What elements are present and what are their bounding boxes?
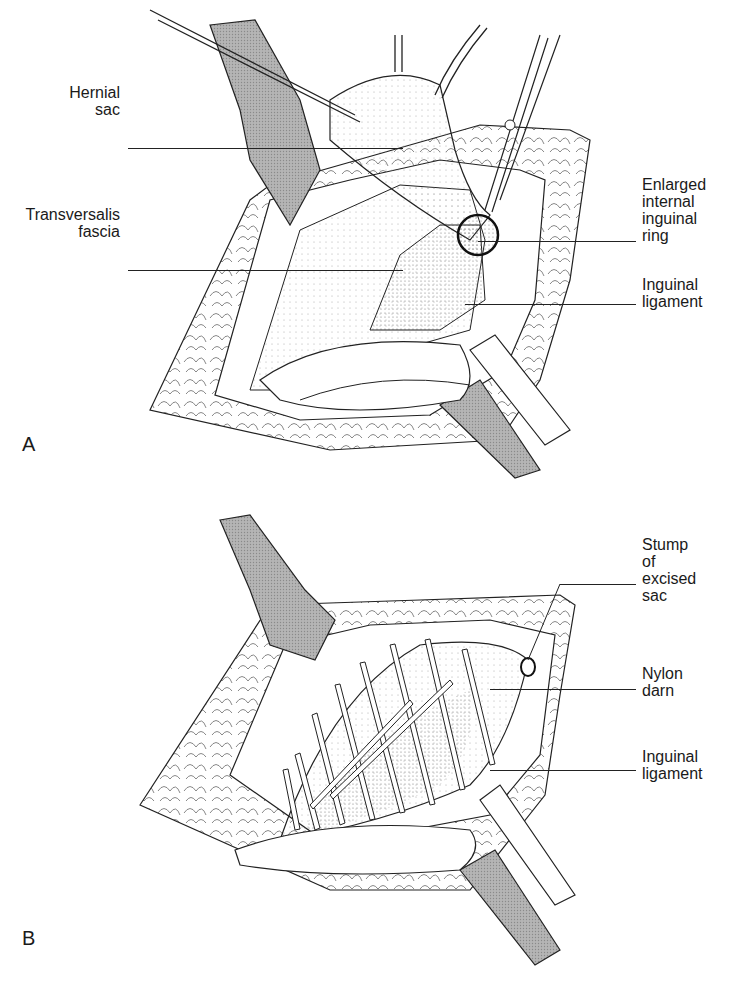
label-line: Inguinal (642, 748, 742, 765)
label-line: ligament (642, 765, 742, 782)
label-line: ring (642, 227, 742, 244)
label-line: Hernial (40, 84, 120, 101)
label-line: inguinal (642, 210, 742, 227)
leader-line-stump (560, 584, 636, 585)
leader-line-transversalis-fascia (128, 270, 403, 271)
label-nylon-darn: Nylon darn (642, 665, 742, 699)
label-line: internal (642, 193, 742, 210)
panel-letter-a: A (22, 433, 35, 456)
figure-b: Stump of excised sac Nylon darn Inguinal… (0, 495, 746, 988)
panel-letter-b: B (22, 927, 35, 950)
figure-a: Hernial sac Transversalis fascia Enlarge… (0, 0, 746, 495)
leader-line-nylon-darn (490, 689, 636, 690)
leader-line-inguinal-ligament-b (490, 770, 636, 771)
label-line: fascia (10, 223, 120, 240)
label-hernial-sac: Hernial sac (40, 84, 120, 118)
figure-a-illustration (0, 0, 746, 495)
label-line: sac (40, 101, 120, 118)
label-line: Inguinal (642, 276, 742, 293)
label-enlarged-internal-inguinal-ring: Enlarged internal inguinal ring (642, 176, 742, 244)
label-line: sac (642, 587, 742, 604)
leader-line-ring (478, 241, 636, 242)
label-line: darn (642, 682, 742, 699)
label-line: Enlarged (642, 176, 742, 193)
label-transversalis-fascia: Transversalis fascia (10, 206, 120, 240)
label-inguinal-ligament-b: Inguinal ligament (642, 748, 742, 782)
leader-line-hernial-sac (128, 148, 403, 149)
leader-line-inguinal-ligament-a (465, 304, 636, 305)
figure-b-illustration (0, 495, 746, 988)
label-line: ligament (642, 293, 742, 310)
label-stump-of-excised-sac: Stump of excised sac (642, 536, 742, 604)
label-line: Transversalis (10, 206, 120, 223)
label-inguinal-ligament-a: Inguinal ligament (642, 276, 742, 310)
label-line: of (642, 553, 742, 570)
label-line: Nylon (642, 665, 742, 682)
label-line: Stump (642, 536, 742, 553)
label-line: excised (642, 570, 742, 587)
